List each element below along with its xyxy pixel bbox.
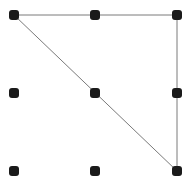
grid-dot bbox=[9, 88, 19, 98]
grid-dot bbox=[90, 166, 100, 176]
diagram-canvas bbox=[0, 0, 191, 187]
grid-dot bbox=[9, 10, 19, 20]
grid-dot bbox=[90, 88, 100, 98]
grid-dot bbox=[172, 166, 182, 176]
grid-dot bbox=[90, 10, 100, 20]
grid-dot bbox=[9, 166, 19, 176]
grid-dot bbox=[172, 88, 182, 98]
dot-grid-triangle-diagram bbox=[0, 0, 191, 187]
grid-dot bbox=[172, 10, 182, 20]
